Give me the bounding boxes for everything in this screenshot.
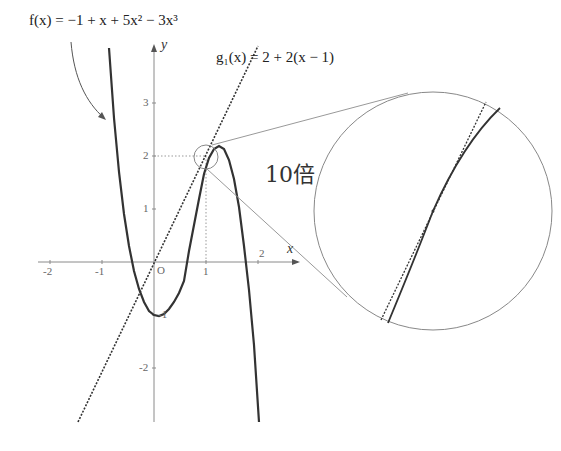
graph-canvas: [0, 0, 561, 451]
magnification-label: 10倍: [265, 156, 315, 188]
x-axis-arrow-icon: [292, 259, 300, 265]
tangent-line-g1: [78, 46, 258, 422]
cubic-curve-f: [109, 48, 259, 422]
g-formula-label: g₁(x) = 2 + 2(x − 1): [216, 49, 334, 66]
x-tick-label: -2: [43, 265, 52, 277]
annotation-arrow: [71, 42, 104, 118]
y-tick-label: 3: [143, 96, 149, 108]
y-tick-label: 2: [143, 149, 149, 161]
f-formula-text: f(x) = −1 + x + 5x² − 3x³: [29, 12, 178, 28]
y-axis-label: y: [161, 37, 167, 53]
x-axis-label: x: [287, 241, 293, 257]
magnified-tangent-point: [432, 210, 435, 213]
f-formula-label: f(x) = −1 + x + 5x² − 3x³: [29, 12, 178, 29]
x-tick-label: -1: [95, 265, 104, 277]
y-axis-arrow-icon: [151, 44, 157, 52]
x-tick-label: 2: [259, 247, 265, 259]
x-tick-label: 1: [203, 265, 209, 277]
y-tick-label: 1: [143, 202, 149, 214]
y-tick-label: -1: [158, 308, 167, 320]
y-tick-label: -2: [139, 361, 148, 373]
g-formula-text: g₁(x) = 2 + 2(x − 1): [216, 49, 334, 65]
origin-label: O: [157, 264, 165, 276]
